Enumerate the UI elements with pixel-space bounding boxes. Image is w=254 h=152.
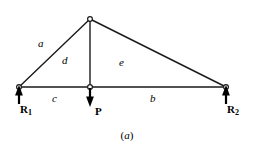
truss-figure: a d e c b R1 P R2 (a) <box>0 0 254 152</box>
force-label-r2: R2 <box>227 104 239 117</box>
joint-apex <box>88 17 93 22</box>
figure-caption: (a) <box>0 130 254 141</box>
force-arrow-p <box>86 88 94 107</box>
member-e-line <box>90 19 226 87</box>
member-label-e: e <box>119 57 124 68</box>
force-arrow-p-head <box>86 97 94 108</box>
truss-joints <box>17 17 229 90</box>
member-a-line <box>19 19 90 87</box>
force-arrows <box>15 85 230 107</box>
force-label-p-symbol: P <box>95 105 102 117</box>
truss-members <box>19 19 226 87</box>
member-label-d: d <box>62 55 68 66</box>
member-label-c: c <box>52 93 57 104</box>
force-label-p: P <box>95 106 102 117</box>
force-label-r1-subscript: 1 <box>28 108 32 117</box>
member-label-b: b <box>150 93 156 104</box>
figure-caption-close: ) <box>130 129 134 141</box>
force-label-r2-subscript: 2 <box>235 108 239 117</box>
force-label-r1-symbol: R <box>20 103 28 115</box>
force-label-r1: R1 <box>20 104 32 117</box>
member-label-a: a <box>38 38 44 49</box>
force-label-r2-symbol: R <box>227 103 235 115</box>
